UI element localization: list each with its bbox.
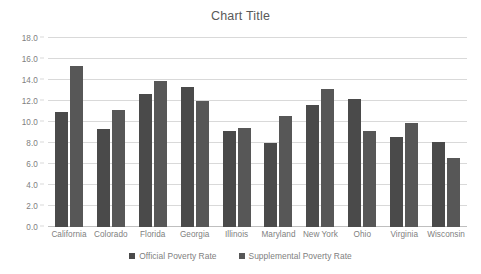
bar[interactable] <box>139 94 152 227</box>
bar-group <box>174 38 216 227</box>
bar[interactable] <box>238 128 251 227</box>
bar[interactable] <box>390 137 403 227</box>
bar[interactable] <box>363 131 376 227</box>
bar[interactable] <box>55 112 68 228</box>
legend-entry[interactable]: Official Poverty Rate <box>129 251 216 261</box>
x-tick-label: Wisconsin <box>425 230 467 239</box>
y-tick-mark <box>40 79 44 80</box>
bar[interactable] <box>348 99 361 227</box>
y-tick-mark <box>40 163 44 164</box>
y-tick-label: 18.0 <box>22 34 38 43</box>
legend-swatch-icon <box>129 253 135 259</box>
y-tick-mark <box>40 100 44 101</box>
x-tick-label: Georgia <box>174 230 216 239</box>
bar[interactable] <box>223 131 236 227</box>
chart-legend: Official Poverty RateSupplemental Povert… <box>0 251 481 261</box>
y-tick-mark <box>40 142 44 143</box>
bar[interactable] <box>97 129 110 227</box>
bar-group <box>258 38 300 227</box>
bar[interactable] <box>112 110 125 227</box>
bar-group <box>90 38 132 227</box>
bar[interactable] <box>321 89 334 227</box>
y-tick-label: 4.0 <box>26 181 38 190</box>
y-tick-label: 14.0 <box>22 76 38 85</box>
bar-group <box>299 38 341 227</box>
chart-title: Chart Title <box>0 9 481 23</box>
y-tick-mark <box>40 58 44 59</box>
legend-entry[interactable]: Supplemental Poverty Rate <box>239 251 352 261</box>
bar-group <box>341 38 383 227</box>
legend-swatch-icon <box>239 253 245 259</box>
bar[interactable] <box>306 105 319 227</box>
x-tick-label: Maryland <box>258 230 300 239</box>
x-tick-label: Ohio <box>341 230 383 239</box>
chart-container: Chart Title 0.02.04.06.08.010.012.014.01… <box>0 0 481 274</box>
y-tick-mark <box>40 226 44 227</box>
bar[interactable] <box>405 123 418 227</box>
y-tick-label: 0.0 <box>26 223 38 232</box>
bar[interactable] <box>432 142 445 227</box>
bar[interactable] <box>154 81 167 227</box>
y-tick-mark <box>40 184 44 185</box>
x-tick-label: California <box>48 230 90 239</box>
y-axis: 0.02.04.06.08.010.012.014.016.018.0 <box>0 38 44 227</box>
bars-layer <box>48 38 467 227</box>
bar[interactable] <box>181 87 194 227</box>
x-axis: CaliforniaColoradoFloridaGeorgiaIllinois… <box>48 230 467 239</box>
bar[interactable] <box>70 66 83 227</box>
y-tick-label: 16.0 <box>22 55 38 64</box>
y-tick-mark <box>40 37 44 38</box>
bar-group <box>383 38 425 227</box>
bar-group <box>48 38 90 227</box>
x-tick-label: Colorado <box>90 230 132 239</box>
x-tick-label: Illinois <box>216 230 258 239</box>
y-tick-mark <box>40 205 44 206</box>
bar-group <box>425 38 467 227</box>
bar[interactable] <box>264 143 277 227</box>
y-tick-mark <box>40 121 44 122</box>
y-tick-label: 6.0 <box>26 160 38 169</box>
y-tick-label: 8.0 <box>26 139 38 148</box>
x-tick-label: Virginia <box>383 230 425 239</box>
y-tick-label: 2.0 <box>26 202 38 211</box>
legend-label: Supplemental Poverty Rate <box>249 251 352 261</box>
x-tick-label: New York <box>299 230 341 239</box>
legend-label: Official Poverty Rate <box>139 251 216 261</box>
bar[interactable] <box>447 158 460 227</box>
y-tick-label: 12.0 <box>22 97 38 106</box>
bar-group <box>216 38 258 227</box>
bar[interactable] <box>196 101 209 227</box>
bar[interactable] <box>279 116 292 227</box>
x-tick-label: Florida <box>132 230 174 239</box>
y-tick-label: 10.0 <box>22 118 38 127</box>
bar-group <box>132 38 174 227</box>
